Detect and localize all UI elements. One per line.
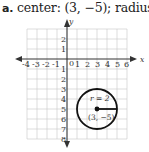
- svg-text:4: 4: [105, 60, 110, 69]
- svg-text:-1: -1: [52, 60, 60, 69]
- x-axis-arrow-left-icon: [15, 56, 22, 62]
- radius-label: r = 2: [90, 94, 110, 103]
- svg-text:1: 1: [61, 45, 66, 54]
- svg-text:1: 1: [61, 65, 66, 74]
- svg-text:2: 2: [85, 60, 90, 69]
- svg-text:3: 3: [61, 85, 66, 94]
- center-label: (3, −5): [88, 113, 115, 122]
- svg-text:1: 1: [75, 60, 80, 69]
- svg-text:6: 6: [61, 115, 66, 124]
- svg-text:3: 3: [95, 60, 100, 69]
- y-axis-label: y: [68, 17, 74, 26]
- svg-text:5: 5: [115, 60, 120, 69]
- svg-text:2: 2: [61, 35, 66, 44]
- svg-text:4: 4: [61, 95, 66, 104]
- svg-text:2: 2: [61, 75, 66, 84]
- circle-graph: x y -4 -3 -2 -1 0 1 2 3 4 5 6 2 1 1 2 3 …: [0, 0, 149, 152]
- x-tick-labels: -4 -3 -2 -1 0 1 2 3 4 5 6: [22, 59, 129, 69]
- svg-text:-3: -3: [32, 60, 40, 69]
- center-point: [95, 107, 100, 112]
- svg-text:-4: -4: [22, 60, 30, 69]
- svg-text:8: 8: [61, 135, 66, 144]
- axes: [17, 22, 135, 145]
- svg-text:7: 7: [61, 125, 66, 134]
- svg-text:5: 5: [61, 105, 66, 114]
- x-axis-label: x: [140, 55, 145, 64]
- svg-text:0: 0: [69, 59, 74, 68]
- y-tick-labels: 2 1 1 2 3 4 5 6 7 8: [61, 35, 66, 144]
- svg-text:-2: -2: [42, 60, 50, 69]
- svg-text:6: 6: [124, 60, 129, 69]
- x-axis-arrow-right-icon: [130, 56, 137, 62]
